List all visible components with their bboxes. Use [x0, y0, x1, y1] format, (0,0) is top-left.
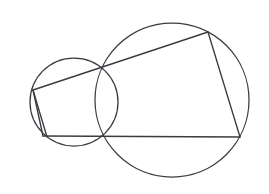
- geometry-figure: [0, 0, 269, 194]
- geometry-canvas: [0, 0, 269, 194]
- figure-background: [0, 0, 269, 194]
